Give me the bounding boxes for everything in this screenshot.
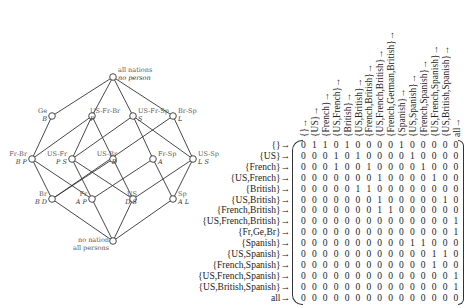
matrix-cell: 0 bbox=[298, 293, 309, 304]
matrix-cell: 0 bbox=[418, 205, 429, 216]
node-object-label: L bbox=[177, 115, 182, 123]
matrix-cell: 0 bbox=[309, 293, 320, 304]
node-attribute-label: US bbox=[127, 190, 137, 198]
node-circle bbox=[170, 113, 177, 120]
node-attribute-label: Sp bbox=[178, 190, 187, 198]
column-header-label: {French,German,British}→ bbox=[386, 31, 396, 137]
row-label: {Spanish}→ bbox=[241, 238, 290, 249]
matrix-cell: 0 bbox=[450, 249, 461, 260]
column-header: {US}→ bbox=[309, 0, 319, 137]
column-header: {Spanish}→ bbox=[396, 0, 406, 137]
node-attribute-label: US-Sp bbox=[198, 150, 219, 158]
column-header-label: {US}→ bbox=[310, 106, 320, 137]
matrix-cell: 0 bbox=[407, 216, 418, 227]
matrix-cell: 0 bbox=[374, 216, 385, 227]
node-attribute-label: no nation bbox=[78, 236, 109, 244]
column-header: {US,Spanish}→ bbox=[407, 0, 417, 137]
matrix-cell: 0 bbox=[363, 249, 374, 260]
matrix-cell: 0 bbox=[320, 205, 331, 216]
matrix-cell: 0 bbox=[429, 282, 440, 293]
matrix-cell: 0 bbox=[385, 151, 396, 162]
matrix-cell: 1 bbox=[331, 151, 342, 162]
matrix-cell: 0 bbox=[407, 173, 418, 184]
matrix-cell: 0 bbox=[385, 271, 396, 282]
node-object-label: all persons bbox=[73, 244, 109, 252]
node-circle bbox=[170, 196, 177, 203]
matrix-cell: 1 bbox=[450, 271, 461, 282]
matrix-row: 000000010000100 bbox=[298, 173, 461, 184]
matrix-row: 000000000000001 bbox=[298, 271, 461, 282]
lattice-node-ge: GeB bbox=[38, 107, 55, 123]
matrix-cell: 0 bbox=[418, 249, 429, 260]
matrix-cell: 1 bbox=[352, 151, 363, 162]
matrix-cell: 0 bbox=[309, 238, 320, 249]
matrix-cell: 0 bbox=[418, 227, 429, 238]
matrix-cell: 0 bbox=[342, 260, 353, 271]
matrix-cell: 0 bbox=[309, 227, 320, 238]
matrix-cell: 0 bbox=[342, 216, 353, 227]
matrix-cell: 0 bbox=[385, 260, 396, 271]
matrix-cell: 0 bbox=[407, 271, 418, 282]
matrix-cell: 0 bbox=[429, 227, 440, 238]
matrix-cell: 1 bbox=[440, 249, 451, 260]
matrix-cell: 0 bbox=[407, 140, 418, 151]
matrix-cell: 0 bbox=[331, 195, 342, 206]
node-object-label: A P bbox=[75, 198, 88, 206]
matrix-cell: 0 bbox=[320, 162, 331, 173]
matrix-cell: 1 bbox=[450, 282, 461, 293]
node-circle bbox=[29, 156, 36, 163]
node-object-label: P bbox=[89, 115, 95, 123]
matrix-cell: 1 bbox=[450, 227, 461, 238]
matrix-cell: 0 bbox=[309, 184, 320, 195]
matrix-cell: 0 bbox=[352, 227, 363, 238]
node-object-label: B bbox=[41, 115, 47, 123]
matrix-cell: 0 bbox=[342, 184, 353, 195]
matrix-cell: 0 bbox=[298, 184, 309, 195]
matrix-cell: 0 bbox=[429, 205, 440, 216]
matrix-cell: 0 bbox=[385, 162, 396, 173]
matrix-cell: 0 bbox=[363, 151, 374, 162]
matrix-cell: 0 bbox=[352, 260, 363, 271]
matrix-cell: 0 bbox=[352, 205, 363, 216]
matrix-cell: 0 bbox=[429, 162, 440, 173]
matrix-cell: 1 bbox=[309, 140, 320, 151]
matrix-cell: 0 bbox=[363, 140, 374, 151]
matrix-cell: 0 bbox=[331, 249, 342, 260]
matrix-cell: 0 bbox=[429, 151, 440, 162]
matrix-cell: 0 bbox=[418, 173, 429, 184]
node-attribute-label: all nations bbox=[118, 66, 152, 74]
matrix-cell: 0 bbox=[363, 205, 374, 216]
matrix-cell: 0 bbox=[418, 271, 429, 282]
column-header-label: {French,Spanish}→ bbox=[419, 60, 429, 137]
matrix-cell: 0 bbox=[309, 162, 320, 173]
matrix-cell: 0 bbox=[429, 216, 440, 227]
matrix-cell: 0 bbox=[374, 293, 385, 304]
matrix-row: 000000010000010 bbox=[298, 195, 461, 206]
matrix-cell: 0 bbox=[440, 216, 451, 227]
matrix-cell: 0 bbox=[385, 293, 396, 304]
lattice-node-br: BrB D bbox=[34, 190, 55, 206]
matrix-cell: 0 bbox=[440, 282, 451, 293]
matrix-cell: 0 bbox=[418, 184, 429, 195]
matrix-cell: 0 bbox=[331, 282, 342, 293]
matrix-cell: 0 bbox=[309, 216, 320, 227]
matrix-cell: 0 bbox=[309, 151, 320, 162]
node-circle bbox=[49, 196, 56, 203]
node-attribute-label: Br bbox=[39, 190, 48, 198]
column-header-label: {US,French}→ bbox=[332, 77, 342, 137]
column-header-label: {US,British,Spanish}→ bbox=[441, 46, 451, 137]
matrix-cell: 0 bbox=[385, 195, 396, 206]
matrix-row: 000000000011000 bbox=[298, 238, 461, 249]
lattice-node-us: USD S bbox=[124, 190, 137, 206]
row-label: {US}→ bbox=[259, 151, 290, 162]
matrix-cell: 0 bbox=[331, 205, 342, 216]
lattice-node-top: all nationsno person bbox=[110, 66, 153, 82]
lattice-node-fr-sp: Fr-SpA bbox=[150, 150, 177, 166]
matrix-cell: 0 bbox=[320, 151, 331, 162]
column-header: {French,German,British}→ bbox=[385, 0, 395, 137]
matrix-cell: 0 bbox=[429, 184, 440, 195]
lattice-nodes: all nationsno personGeBUS-Fr-BrPUS-Fr-Sp… bbox=[9, 66, 219, 252]
matrix-cell: 0 bbox=[363, 195, 374, 206]
column-header-label: {British}→ bbox=[343, 93, 353, 138]
node-circle bbox=[150, 156, 157, 163]
